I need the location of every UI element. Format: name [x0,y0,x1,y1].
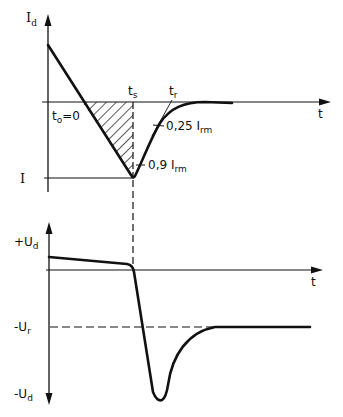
upper-y-axis-arrow-icon [45,14,52,26]
upper-current-plot: Id t I to=0 ts tr 0,25 Irm 0,9 Irm [20,10,331,192]
tr-label: tr [169,84,178,100]
marker-09-label: 0,9 Irm [148,158,187,174]
marker-025-label: 0,25 Irm [166,119,212,135]
marker-025-tick [153,125,164,126]
lower-t-axis-label: t [311,275,316,289]
lower-y-axis-down-arrow-icon [46,393,53,405]
upper-t-axis-arrow-icon [319,99,331,106]
voltage-curve [49,257,310,400]
lower-t-axis-arrow-icon [311,267,323,274]
lower-voltage-plot: +Ud t -Ur -Ud [14,222,323,405]
ts-label: ts [128,84,138,100]
neg-voltage-label: -Ud [14,387,33,403]
reverse-recovery-diagram: Id t I to=0 ts tr 0,25 Irm 0,9 Irm [0,0,343,417]
pos-voltage-label: +Ud [14,235,39,251]
reverse-voltage-label: -Ur [14,320,31,336]
current-level-label: I [20,171,25,186]
upper-y-axis-label: Id [26,10,37,28]
t0-label: to=0 [52,109,80,125]
upper-t-axis-label: t [318,107,323,121]
lower-y-axis-up-arrow-icon [46,222,53,234]
